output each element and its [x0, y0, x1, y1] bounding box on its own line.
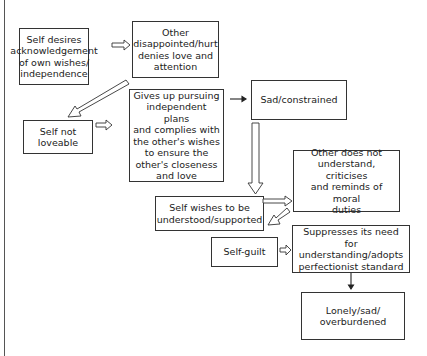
hollow-arrow-icon: [68, 80, 129, 117]
hollow-arrow-icon: [268, 208, 290, 225]
hollow-arrow-icon: [280, 245, 291, 255]
hollow-arrow-icon: [112, 40, 130, 50]
hollow-arrow-icon: [96, 120, 112, 130]
arrows-layer: [0, 0, 427, 356]
solid-arrow-icon: [349, 285, 354, 289]
hollow-arrow-icon: [248, 123, 263, 194]
solid-arrow-icon: [242, 97, 246, 102]
hollow-arrow-icon: [263, 196, 292, 206]
